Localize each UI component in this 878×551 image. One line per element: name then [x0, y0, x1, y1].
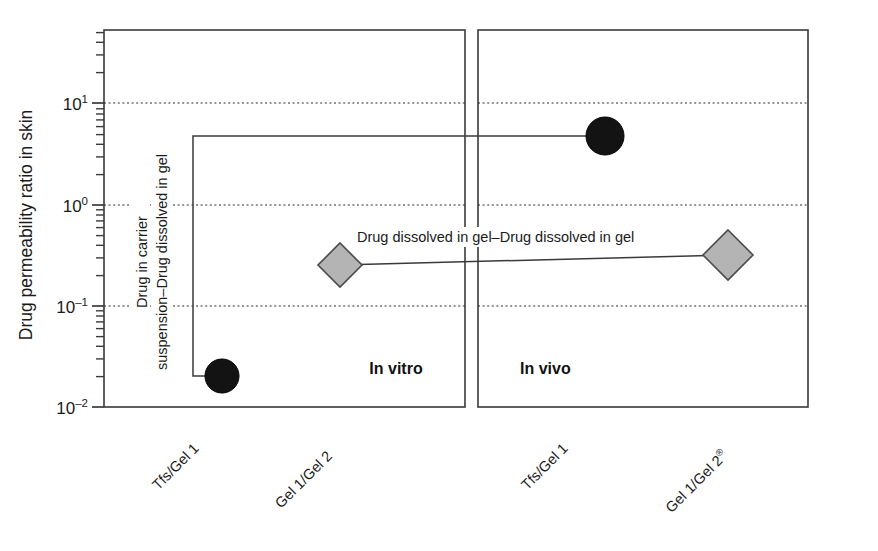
- annotation-diamond-label: Drug dissolved in gel–Drug dissolved in …: [357, 229, 634, 245]
- x-label-in-vitro-tfs-gel1: Tfs/Gel 1: [149, 440, 202, 493]
- x-label-in-vivo-tfs-gel1: Tfs/Gel 1: [518, 440, 571, 493]
- connector-circle-path: [193, 136, 605, 376]
- data-point-in-vitro-tfs-gel1[interactable]: [205, 359, 239, 393]
- x-axis-category-labels: Tfs/Gel 1 Gel 1/Gel 2 Tfs/Gel 1 Gel 1/Ge…: [149, 440, 731, 516]
- annotation-circle-connector: Drug in carrier suspension–Drug dissolve…: [130, 130, 173, 400]
- annotation-diamond-connector: Drug dissolved in gel–Drug dissolved in …: [352, 227, 732, 247]
- y-axis-tick-labels: 101 100 10–1 10–2: [56, 93, 88, 418]
- annotation-circle-line2: suspension–Drug dissolved in gel: [154, 154, 170, 370]
- x-label-in-vivo-gel1-gel2: Gel 1/Gel 2®: [661, 446, 731, 516]
- y-axis-ticks: [92, 33, 104, 407]
- y-axis-title: Drug permeability ratio in skin: [16, 110, 36, 341]
- connector-circles: [193, 136, 605, 376]
- y-tick-10e0: 100: [63, 195, 88, 216]
- y-tick-10e-2: 10–2: [56, 397, 88, 418]
- data-point-in-vitro-gel1-gel2[interactable]: [318, 243, 362, 287]
- panel-in-vivo: In vivo: [478, 30, 808, 407]
- chart-canvas: Drug permeability ratio in skin 101 100 …: [0, 0, 878, 551]
- annotation-circle-line1: Drug in carrier: [134, 216, 150, 308]
- data-point-in-vivo-tfs-gel1[interactable]: [586, 117, 624, 155]
- x-label-in-vitro-gel1-gel2: Gel 1/Gel 2: [272, 448, 335, 511]
- connector-diamonds: [340, 255, 728, 265]
- y-tick-10e-1: 10–1: [56, 296, 88, 317]
- panel-frame-right: [478, 30, 808, 407]
- y-tick-10e1: 101: [63, 93, 88, 114]
- panel-label-in-vivo: In vivo: [520, 360, 571, 377]
- panel-label-in-vitro: In vitro: [369, 360, 423, 377]
- connector-diamond-path: [340, 255, 728, 265]
- figure-root: Drug permeability ratio in skin 101 100 …: [0, 0, 878, 551]
